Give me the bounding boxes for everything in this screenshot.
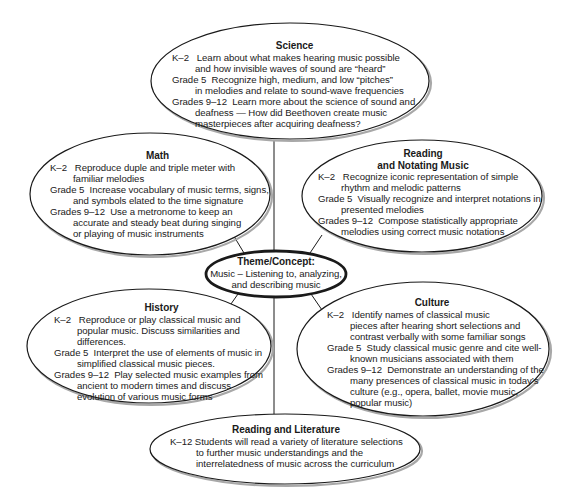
science-grade5: Grade 5 Recognize high, medium, and low … [172, 74, 417, 96]
entry-text: Compose statistically appropriate [378, 215, 518, 226]
science-k2: K–2 Learn about what makes hearing music… [172, 52, 417, 74]
entry-text: melodies using correct music notations [318, 226, 538, 237]
theme-title: Theme/Concept: [206, 256, 346, 268]
node-reading-notating: Reading and Notating Music K–2 Recognize… [318, 148, 538, 238]
math-grade5: Grade 5 Increase vocabulary of music ter… [50, 184, 265, 206]
entry-text: Identify names of classical music [352, 309, 490, 320]
entry-text: Visually recognize and interpret notatio… [358, 193, 541, 204]
grade-label: K–12 [170, 436, 192, 447]
reading-notating-k2: K–2 Recognize iconic representation of s… [318, 171, 538, 193]
entry-text: Learn more about the science of sound an… [232, 96, 415, 107]
node-history: History K–2 Reproduce or play classical … [54, 302, 269, 402]
grade-label: Grade 5 [318, 193, 352, 204]
entry-text: and symbols elated to the time signature [50, 195, 265, 206]
entry-text: deafness — How did Beethoven create musi… [172, 107, 417, 118]
math-grades9-12: Grades 9–12 Use a metronome to keep an a… [50, 206, 265, 239]
entry-text: Learn about what makes hearing music pos… [197, 52, 400, 63]
reading-literature-title: Reading and Literature [162, 424, 410, 436]
history-k2: K–2 Reproduce or play classical music an… [54, 314, 269, 347]
culture-k2: K–2 Identify names of classical music pi… [327, 309, 547, 342]
entry-text: Demonstrate an understanding of the [387, 364, 544, 375]
entry-text: Recognize high, medium, and low “pitches… [212, 74, 393, 85]
node-math: Math K–2 Reproduce duple and triple mete… [50, 150, 265, 239]
entry-text: rhythm and melodic patterns [318, 182, 538, 193]
entry-text: popular music) [327, 397, 547, 408]
entry-text: many presences of classical music in tod… [327, 375, 547, 386]
entry-text: Students will read a variety of literatu… [195, 436, 403, 447]
grade-label: Grades 9–12 [327, 364, 382, 375]
math-title: Math [50, 150, 265, 162]
grade-label: K–2 [172, 52, 189, 63]
reading-notating-title-2: and Notating Music [308, 160, 538, 172]
grade-label: Grades 9–12 [318, 215, 373, 226]
node-science: Science K–2 Learn about what makes heari… [172, 40, 417, 129]
entry-text: ancient to modern times and discuss [54, 380, 269, 391]
entry-text: Use a metronome to keep an [110, 206, 232, 217]
grade-label: Grade 5 [54, 347, 88, 358]
grade-label: Grades 9–12 [54, 369, 109, 380]
math-k2: K–2 Reproduce duple and triple meter wit… [50, 162, 265, 184]
history-grades9-12: Grades 9–12 Play selected music examples… [54, 369, 269, 402]
entry-text: culture (e.g., opera, ballet, movie musi… [327, 386, 547, 397]
grade-label: K–2 [318, 171, 335, 182]
entry-text: known musicians associated with them [327, 353, 547, 364]
culture-title: Culture [317, 297, 547, 309]
entry-text: accurate and steady beat during singing [50, 217, 265, 228]
entry-text: familiar melodies [50, 173, 265, 184]
entry-text: and how invisible waves of sound are “he… [172, 63, 417, 74]
entry-text: Study classical music genre and cite wel… [367, 342, 542, 353]
culture-grade5: Grade 5 Study classical music genre and … [327, 342, 547, 364]
grade-label: Grade 5 [327, 342, 361, 353]
grade-label: Grades 9–12 [172, 96, 227, 107]
connector-reading-notating [310, 235, 322, 253]
grade-label: K–2 [327, 309, 344, 320]
theme-line-2: and describing music [206, 279, 346, 291]
reading-notating-grade5: Grade 5 Visually recognize and interpret… [318, 193, 538, 215]
entry-text: pieces after hearing short selections an… [327, 320, 547, 331]
grade-label: K–2 [50, 162, 67, 173]
entry-text: in melodies and relate to sound-wave fre… [172, 85, 417, 96]
entry-text: or playing of music instruments [50, 228, 265, 239]
entry-text: contrast verbally with some familiar son… [327, 331, 547, 342]
entry-text: evolution of various music forms [54, 391, 269, 402]
entry-text: to further music understandings and the [170, 447, 410, 458]
grade-label: Grades 9–12 [50, 206, 105, 217]
grade-label: Grade 5 [50, 184, 84, 195]
entry-text: differences. [54, 336, 269, 347]
entry-text: Play selected music examples from [114, 369, 263, 380]
reading-literature-k12: K–12 Students will read a variety of lit… [170, 436, 410, 469]
entry-text: popular music. Discuss similarities and [54, 325, 269, 336]
node-reading-literature: Reading and Literature K–12 Students wil… [170, 424, 410, 469]
science-grades9-12: Grades 9–12 Learn more about the science… [172, 96, 417, 129]
reading-notating-grades9-12: Grades 9–12 Compose statistically approp… [318, 215, 538, 237]
entry-text: interrelatedness of music across the cur… [170, 458, 410, 469]
grade-label: Grade 5 [172, 74, 206, 85]
grade-label: K–2 [54, 314, 71, 325]
entry-text: Increase vocabulary of music terms, sign… [90, 184, 269, 195]
history-grade5: Grade 5 Interpret the use of elements of… [54, 347, 269, 369]
node-theme: Theme/Concept: Music – Listening to, ana… [206, 256, 346, 291]
node-culture: Culture K–2 Identify names of classical … [327, 297, 547, 408]
science-title: Science [172, 40, 417, 52]
reading-notating-title-1: Reading [308, 148, 538, 160]
entry-text: simplified classical music pieces. [54, 358, 269, 369]
culture-grades9-12: Grades 9–12 Demonstrate an understanding… [327, 364, 547, 408]
entry-text: masterpieces after acquiring deafness? [172, 118, 417, 129]
entry-text: Reproduce or play classical music and [79, 314, 241, 325]
entry-text: presented melodies [318, 204, 538, 215]
concept-web-diagram: Science K–2 Learn about what makes heari… [0, 0, 565, 499]
entry-text: Recognize iconic representation of simpl… [343, 171, 519, 182]
entry-text: Reproduce duple and triple meter with [75, 162, 235, 173]
history-title: History [54, 302, 269, 314]
theme-line-1: Music – Listening to, analyzing, [206, 268, 346, 280]
entry-text: Interpret the use of elements of music i… [94, 347, 263, 358]
